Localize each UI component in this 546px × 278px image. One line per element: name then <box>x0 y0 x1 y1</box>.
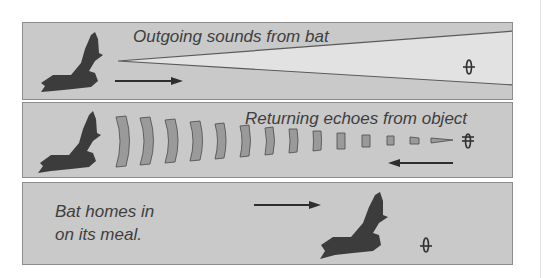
panel-returning-echoes: Returning echoes from object <box>22 102 513 178</box>
bat-icon <box>320 192 388 259</box>
arrow-left-icon <box>388 159 453 167</box>
outgoing-label: Outgoing sounds from bat <box>133 27 329 47</box>
moth-icon <box>462 134 474 148</box>
bat-icon <box>38 111 101 173</box>
bat-icon <box>41 32 103 92</box>
panel-bat-homes-in: Bat homes in on its meal. <box>22 182 513 265</box>
panel-outgoing-sounds: Outgoing sounds from bat <box>22 22 513 100</box>
moth-icon <box>420 238 432 252</box>
arrow-right-icon <box>254 201 321 209</box>
returning-label: Returning echoes from object <box>245 109 467 129</box>
arrow-right-icon <box>115 77 183 85</box>
page-edge-rule <box>540 0 541 278</box>
homing-scene <box>23 183 513 265</box>
